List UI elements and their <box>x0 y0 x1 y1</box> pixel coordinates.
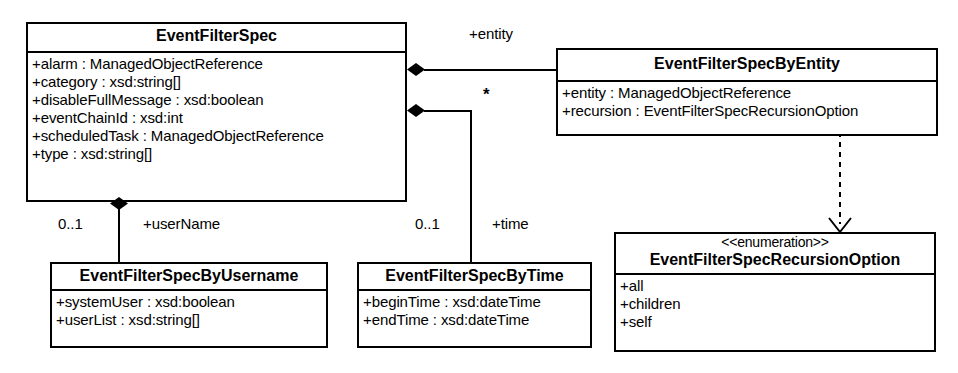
class-box-event-filter-spec-by-username[interactable]: EventFilterSpecByUsername +systemUser : … <box>50 262 328 348</box>
association-role-entity: +entity <box>469 25 513 42</box>
association-role-username: +userName <box>143 215 220 232</box>
class-title-text: EventFilterSpecRecursionOption <box>650 251 901 268</box>
class-attributes-event-filter-spec-by-time: +beginTime : xsd:dateTime +endTime : xsd… <box>359 291 590 331</box>
class-box-event-filter-spec[interactable]: EventFilterSpec +alarm : ManagedObjectRe… <box>26 22 407 202</box>
class-attributes-event-filter-spec-by-username: +systemUser : xsd:boolean +userList : xs… <box>52 291 326 331</box>
association-multiplicity-username: 0..1 <box>58 215 83 232</box>
class-attribute: +alarm : ManagedObjectReference <box>32 55 402 73</box>
class-stereotype-enumeration: <<enumeration>> <box>620 235 930 251</box>
class-attribute: +endTime : xsd:dateTime <box>363 311 587 329</box>
association-role-time: +time <box>492 215 529 232</box>
class-literals-event-filter-spec-recursion-option: +all +children +self <box>616 275 934 333</box>
association-multiplicity-time: 0..1 <box>415 215 440 232</box>
enum-literal: +all <box>620 277 931 295</box>
association-line-entity <box>424 69 557 71</box>
class-title-event-filter-spec-recursion-option: <<enumeration>> EventFilterSpecRecursion… <box>616 234 934 275</box>
class-attribute: +disableFullMessage : xsd:boolean <box>32 91 402 109</box>
composition-diamond-entity <box>407 63 425 76</box>
class-box-event-filter-spec-by-time[interactable]: EventFilterSpecByTime +beginTime : xsd:d… <box>357 262 592 348</box>
class-title-event-filter-spec: EventFilterSpec <box>28 24 405 53</box>
association-line-time-vertical <box>470 110 472 263</box>
association-multiplicity-entity: * <box>483 85 490 105</box>
class-attribute: +entity : ManagedObjectReference <box>562 84 933 102</box>
uml-class-diagram: +entity * +time 0..1 +userName 0..1 Even… <box>0 0 958 373</box>
class-attribute: +recursion : EventFilterSpecRecursionOpt… <box>562 102 933 120</box>
class-title-event-filter-spec-by-username: EventFilterSpecByUsername <box>52 264 326 291</box>
class-title-event-filter-spec-by-time: EventFilterSpecByTime <box>359 264 590 291</box>
class-attribute: +type : xsd:string[] <box>32 145 402 163</box>
class-attribute: +category : xsd:string[] <box>32 73 402 91</box>
association-line-time-horizontal <box>424 110 472 112</box>
class-attribute: +systemUser : xsd:boolean <box>56 293 323 311</box>
class-attribute: +eventChainId : xsd:int <box>32 109 402 127</box>
composition-diamond-time <box>407 104 425 117</box>
enum-literal: +self <box>620 313 931 331</box>
class-title-event-filter-spec-by-entity: EventFilterSpecByEntity <box>558 50 936 82</box>
class-attribute: +userList : xsd:string[] <box>56 311 323 329</box>
enum-literal: +children <box>620 295 931 313</box>
class-attribute: +beginTime : xsd:dateTime <box>363 293 587 311</box>
dependency-arrow-recursion-option <box>820 130 860 240</box>
class-box-event-filter-spec-recursion-option[interactable]: <<enumeration>> EventFilterSpecRecursion… <box>614 232 936 352</box>
class-attribute: +scheduledTask : ManagedObjectReference <box>32 127 402 145</box>
class-box-event-filter-spec-by-entity[interactable]: EventFilterSpecByEntity +entity : Manage… <box>556 48 938 136</box>
class-attributes-event-filter-spec: +alarm : ManagedObjectReference +categor… <box>28 53 405 165</box>
class-attributes-event-filter-spec-by-entity: +entity : ManagedObjectReference +recurs… <box>558 82 936 122</box>
